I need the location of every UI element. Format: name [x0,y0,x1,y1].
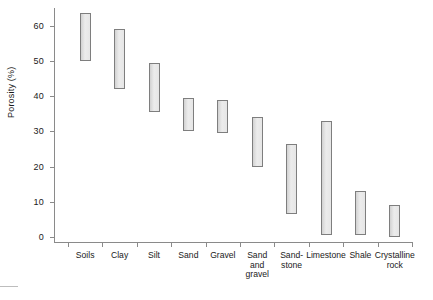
y-tick: 20 [50,167,55,168]
x-tick [68,242,69,247]
y-tick: 40 [50,96,55,97]
range-bar-fill [81,14,90,60]
range-bar-fill [322,122,331,235]
y-tick: 30 [50,131,55,132]
x-tick [309,242,310,247]
y-tick-label: 10 [34,197,44,207]
x-tick [378,242,379,247]
y-tick-label: 40 [34,91,44,101]
x-tick [343,242,344,247]
x-tick [274,242,275,247]
range-bar-fill [218,101,227,132]
range-bar [321,121,332,236]
y-tick: 50 [50,61,55,62]
range-bar-fill [356,192,365,234]
y-tick-label: 20 [34,162,44,172]
x-tick [171,242,172,247]
y-tick: 0 [50,237,55,238]
y-tick: 60 [50,26,55,27]
chart-figure: Porosity (%) 0102030405060 SoilsClaySilt… [0,0,433,300]
x-tick [137,242,138,247]
y-tick: 10 [50,202,55,203]
y-tick-label: 60 [34,21,44,31]
x-tick [206,242,207,247]
x-tick [412,242,413,247]
y-tick-label: 0 [39,232,44,242]
y-axis-line [54,8,55,243]
range-bar-fill [184,99,193,130]
range-bar-fill [253,118,262,165]
plot-area: 0102030405060 SoilsClaySiltSandGravelSan… [54,8,412,243]
range-bar [252,117,263,166]
range-bar [149,63,160,112]
y-axis-title: Porosity (%) [6,67,16,118]
range-bar [183,98,194,131]
range-bar [286,144,297,214]
y-tick-label: 50 [34,56,44,66]
y-tick-label: 30 [34,126,44,136]
caption-rule [0,286,18,287]
x-axis-line [54,242,412,243]
range-bar [217,100,228,133]
range-bar-fill [287,145,296,213]
x-axis-label: Crystalline rock [368,251,422,270]
range-bar-fill [390,206,399,236]
range-bar [80,13,91,61]
range-bar-fill [150,64,159,111]
range-bar [389,205,400,237]
range-bar-fill [115,30,124,88]
range-bar [114,29,125,89]
x-tick [102,242,103,247]
x-tick [240,242,241,247]
range-bar [355,191,366,235]
